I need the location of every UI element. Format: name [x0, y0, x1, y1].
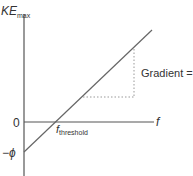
ke-vs-frequency-diagram: KEmax 0 −ϕ f fthreshold Gradient = h	[0, 0, 193, 176]
ke-line	[24, 30, 152, 152]
threshold-label: fthreshold	[56, 123, 88, 136]
x-axis-label: f	[156, 115, 161, 129]
zero-label: 0	[13, 116, 20, 130]
y-axis-label: KEmax	[1, 4, 31, 19]
gradient-annotation: Gradient = h	[141, 67, 193, 79]
minus-phi-label: −ϕ	[2, 146, 16, 160]
